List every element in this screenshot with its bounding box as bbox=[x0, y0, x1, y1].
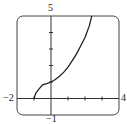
y-max-label: 5 bbox=[48, 3, 53, 13]
y-min-label: −1 bbox=[46, 114, 57, 124]
graph-plot bbox=[0, 0, 127, 124]
x-max-label: 4 bbox=[121, 93, 126, 103]
function-curve bbox=[34, 16, 92, 99]
x-min-label: −2 bbox=[3, 93, 14, 103]
